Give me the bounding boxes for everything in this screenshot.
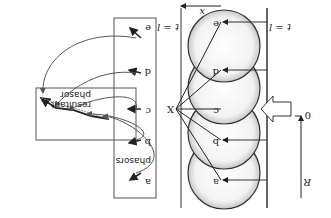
phasor-label-a: a [145, 177, 151, 188]
zone-label-e: e [213, 19, 219, 30]
phasors-label: phasors [115, 156, 151, 166]
zone-label-c: c [213, 106, 219, 117]
axis-label-zero: 0 [305, 110, 311, 121]
zone-label-a: a [213, 177, 219, 188]
phasor-label-d: d [145, 67, 151, 78]
phasor-label-c: c [145, 106, 151, 117]
axis-label-r: R [303, 177, 311, 188]
labels: a b c d e t = l t = l x X 0 R phasors a … [0, 0, 331, 218]
phasor-label-b: b [145, 137, 151, 148]
phasor-label-e: e [145, 23, 151, 34]
wall-label-left: t = l [269, 22, 291, 33]
resultant-label-2: resultant [51, 100, 91, 110]
point-label-x: X [167, 104, 174, 115]
zone-label-b: b [213, 137, 219, 148]
zone-label-d: d [213, 67, 219, 78]
resultant-label-1: phasor [60, 90, 91, 100]
width-label-x: x [199, 7, 205, 18]
wall-label-right: t = l [157, 22, 179, 33]
diagram-stage: a b c d e t = l t = l x X 0 R phasors a … [0, 0, 331, 218]
